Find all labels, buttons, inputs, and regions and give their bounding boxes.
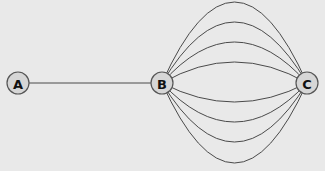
node-label: C xyxy=(302,77,312,92)
node-B: B xyxy=(151,72,173,94)
edge-B-C-4 xyxy=(162,62,307,83)
graph-canvas: ABC xyxy=(0,0,325,171)
node-label: B xyxy=(157,77,167,92)
edge-B-C-2 xyxy=(162,22,307,83)
node-label: A xyxy=(13,77,23,92)
edge-B-C-5 xyxy=(162,83,307,102)
edge-B-C-8 xyxy=(162,83,307,163)
node-A: A xyxy=(7,72,29,94)
edge-B-C-7 xyxy=(162,83,307,142)
node-C: C xyxy=(296,72,318,94)
graph-diagram: ABC xyxy=(0,0,325,171)
